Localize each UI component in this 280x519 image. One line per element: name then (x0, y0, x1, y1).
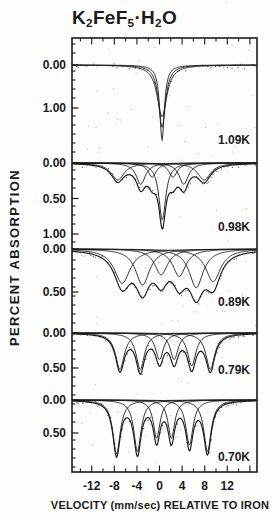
data-point (217, 353, 218, 354)
x-axis-label: VELOCITY (mm/sec) RELATIVE TO IRON (40, 499, 280, 511)
data-point (148, 420, 149, 421)
data-point (228, 405, 229, 406)
temperature-label: 0.89K (218, 295, 250, 309)
data-point (254, 127, 255, 128)
data-point (84, 256, 85, 257)
data-point (154, 47, 155, 48)
data-point (245, 165, 246, 166)
data-point (96, 276, 97, 277)
data-point (134, 184, 135, 185)
data-point (82, 167, 83, 168)
fit-component-curve (72, 65, 256, 116)
data-point (136, 72, 137, 73)
data-point (117, 411, 118, 412)
data-point (226, 406, 227, 407)
data-point (236, 404, 237, 405)
data-point (146, 437, 147, 438)
data-point (180, 216, 181, 217)
x-tick-label: 8 (201, 479, 208, 493)
data-point (76, 402, 77, 403)
data-point (96, 323, 97, 324)
data-point (158, 262, 159, 263)
data-point (195, 426, 196, 427)
data-point (169, 95, 170, 96)
fit-component-curve (72, 400, 256, 451)
fit-component-curve (72, 249, 256, 283)
data-point (96, 91, 97, 92)
title-subscript: 2 (155, 16, 162, 29)
data-point (207, 412, 208, 413)
data-point (90, 413, 91, 414)
data-point (96, 127, 97, 128)
data-point (93, 256, 94, 257)
data-point (229, 290, 230, 291)
data-point (234, 337, 235, 338)
data-point (93, 64, 94, 65)
data-point (212, 174, 213, 175)
data-point (253, 335, 254, 336)
data-point (234, 259, 235, 260)
data-point (95, 384, 96, 385)
fit-component-curve (72, 400, 256, 451)
data-point (180, 429, 181, 430)
y-tick-label: 0.00 (43, 156, 67, 170)
data-point (218, 123, 219, 124)
y-tick-label: 0.50 (43, 426, 67, 440)
data-point (162, 140, 163, 141)
data-point (223, 67, 224, 68)
data-point (236, 258, 237, 259)
data-point (126, 177, 127, 178)
data-point (188, 168, 189, 169)
data-point (120, 120, 121, 121)
data-point (197, 153, 198, 154)
data-point (135, 68, 136, 69)
data-point (81, 255, 82, 256)
data-point (234, 70, 235, 71)
data-point (149, 289, 150, 290)
data-point (152, 190, 153, 191)
data-point (145, 359, 146, 360)
data-point (97, 406, 98, 407)
data-point (255, 165, 256, 166)
data-point (129, 347, 130, 348)
data-point (97, 317, 98, 318)
data-point (238, 336, 239, 337)
data-point (177, 424, 178, 425)
data-point (152, 117, 153, 118)
moessbauer-figure: -12-8-4048120.001.000.000.501.000.000.50… (0, 0, 280, 519)
data-point (128, 451, 129, 452)
data-point (184, 141, 185, 142)
y-tick-label: 1.00 (43, 101, 67, 115)
data-point (207, 306, 208, 307)
data-point (219, 66, 220, 67)
y-tick-label: 0.50 (43, 192, 67, 206)
data-point (188, 106, 189, 107)
data-point (231, 337, 232, 338)
fit-component-curve (72, 400, 256, 445)
data-point (227, 171, 228, 172)
title-subscript: 2 (86, 16, 93, 29)
fit-component-curve (72, 65, 256, 140)
x-tick-label: 4 (179, 479, 186, 493)
data-point (136, 394, 137, 395)
data-point (183, 306, 184, 307)
data-point (221, 280, 222, 281)
data-point (185, 290, 186, 291)
title-part: K (72, 7, 86, 28)
spectra-plot: -12-8-4048120.001.000.000.501.000.000.50… (0, 0, 280, 519)
data-point (219, 347, 220, 348)
data-point (219, 410, 220, 411)
data-point (177, 437, 178, 438)
data-point (232, 68, 233, 69)
data-point (179, 125, 180, 126)
data-point (152, 286, 153, 287)
data-point (129, 68, 130, 69)
data-point (148, 345, 149, 346)
data-point (170, 415, 171, 416)
data-point (131, 282, 132, 283)
data-point (224, 311, 225, 312)
data-point (108, 168, 109, 169)
data-point (179, 294, 180, 295)
data-point (208, 292, 209, 293)
y-tick-label: 1.00 (43, 227, 67, 241)
